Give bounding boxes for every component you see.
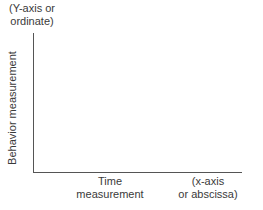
y-axis-annotation: (Y-axis or ordinate) (0, 2, 64, 28)
x-axis-label-line-2: measurement (60, 188, 160, 201)
y-axis-line (33, 33, 34, 173)
x-axis-label: Time measurement (60, 175, 160, 201)
y-axis-annotation-line-1: (Y-axis or (0, 2, 64, 15)
x-axis-annotation-line-1: (x-axis (158, 175, 258, 188)
x-axis-annotation: (x-axis or abscissa) (158, 175, 258, 201)
y-axis-annotation-line-2: ordinate) (0, 15, 64, 28)
y-axis-label: Behavior measurement (6, 38, 18, 178)
x-axis-annotation-line-2: or abscissa) (158, 188, 258, 201)
x-axis-line (33, 172, 242, 173)
x-axis-label-line-1: Time (60, 175, 160, 188)
